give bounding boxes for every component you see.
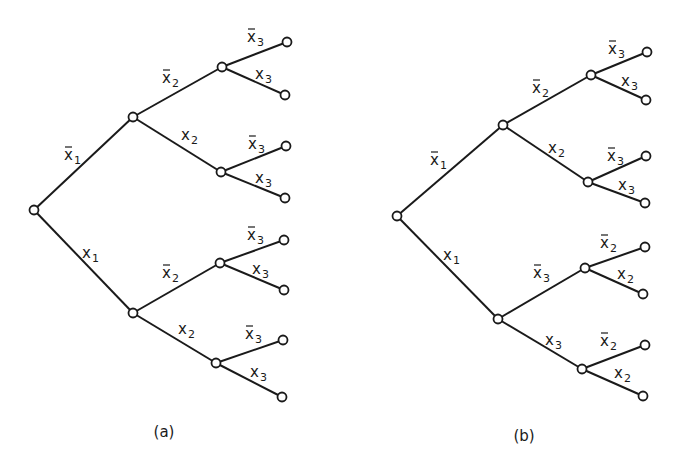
- edge-label: x2: [181, 126, 198, 147]
- tree-node-n11: [587, 71, 596, 80]
- edge-n1-n11: [503, 75, 591, 125]
- edge-label: x3: [621, 72, 638, 93]
- leaf-node-l211: [280, 236, 289, 245]
- edge-label: x1: [443, 246, 460, 267]
- tree-b-edge-labels: x1x1x2x2x3x3x3x3x3x3x2x2x2x2: [430, 40, 638, 385]
- edge-n1-n12: [503, 125, 588, 182]
- edge-label: x3: [255, 169, 272, 190]
- tree-a-caption: (a): [154, 423, 175, 441]
- leaf-node-l212: [280, 286, 289, 295]
- edge-root-n1: [34, 117, 133, 210]
- edge-n2-n22: [133, 313, 216, 363]
- tree-node-root: [393, 212, 402, 221]
- edge-label: x2: [617, 265, 634, 286]
- edge-n12-l122: [588, 182, 645, 203]
- edge-label-negated: x3: [248, 135, 265, 156]
- tree-node-n22: [578, 365, 587, 374]
- edge-n22-l222: [582, 369, 643, 396]
- edge-n1-n11: [133, 67, 222, 117]
- edge-label: x3: [545, 331, 562, 352]
- tree-node-n12: [217, 168, 226, 177]
- edge-label-negated: x2: [162, 69, 179, 90]
- edge-label-negated: x2: [600, 234, 617, 255]
- edge-label-negated: x3: [247, 28, 264, 49]
- leaf-node-l111: [643, 48, 652, 57]
- tree-node-n2: [129, 309, 138, 318]
- leaf-node-l221: [641, 341, 650, 350]
- tree-a-edge-labels: x1x1x2x2x2x2x3x3x3x3x3x3x3x3: [64, 28, 272, 384]
- edge-label: x2: [178, 320, 195, 341]
- edge-label-negated: x2: [532, 79, 549, 100]
- leaf-node-l121: [282, 142, 291, 151]
- tree-node-n22: [212, 359, 221, 368]
- edge-root-n2: [397, 216, 498, 319]
- tree-a: x1x1x2x2x2x2x3x3x3x3x3x3x3x3 (a): [30, 28, 292, 441]
- tree-a-edges: [34, 42, 287, 397]
- leaf-node-l121: [642, 152, 651, 161]
- edge-n11-l112: [222, 67, 285, 95]
- edge-label-negated: x3: [608, 40, 625, 61]
- edge-n12-l122: [221, 172, 285, 198]
- edge-root-n1: [397, 125, 503, 216]
- tree-node-n21: [581, 264, 590, 273]
- leaf-node-l222: [639, 392, 648, 401]
- tree-node-n11: [218, 63, 227, 72]
- edge-n21-l212: [585, 268, 643, 294]
- leaf-node-l222: [278, 393, 287, 402]
- edge-label-negated: x3: [245, 325, 262, 346]
- binary-decision-trees: x1x1x2x2x2x2x3x3x3x3x3x3x3x3 (a) x1x1x2x…: [0, 0, 680, 467]
- tree-node-n21: [216, 259, 225, 268]
- edge-n1-n12: [133, 117, 221, 172]
- edge-label: x1: [82, 244, 99, 265]
- edge-label: x3: [250, 363, 267, 384]
- edge-n2-n22: [498, 319, 582, 369]
- tree-b-caption: (b): [513, 427, 534, 445]
- edge-label-negated: x3: [607, 147, 624, 168]
- edge-label: x2: [548, 139, 565, 160]
- edge-label-negated: x3: [247, 226, 264, 247]
- edge-label: x3: [255, 65, 272, 86]
- edge-label-negated: x2: [600, 332, 617, 353]
- leaf-node-l221: [279, 336, 288, 345]
- tree-node-n1: [129, 113, 138, 122]
- leaf-node-l112: [642, 96, 651, 105]
- edge-label-negated: x2: [162, 264, 179, 285]
- edge-label: x3: [252, 260, 269, 281]
- leaf-node-l112: [281, 91, 290, 100]
- tree-node-n1: [499, 121, 508, 130]
- leaf-node-l212: [639, 290, 648, 299]
- edge-label-negated: x1: [64, 146, 81, 167]
- edge-label: x2: [614, 364, 631, 385]
- edge-label-negated: x1: [430, 151, 447, 172]
- tree-node-root: [30, 206, 39, 215]
- leaf-node-l211: [641, 243, 650, 252]
- tree-a-nodes: [30, 38, 292, 402]
- tree-node-n12: [584, 178, 593, 187]
- edge-n22-l221: [216, 340, 283, 363]
- leaf-node-l122: [641, 199, 650, 208]
- edge-n22-l222: [216, 363, 282, 397]
- edge-n2-n21: [133, 263, 220, 313]
- tree-node-n2: [494, 315, 503, 324]
- tree-b: x1x1x2x2x3x3x3x3x3x3x2x2x2x2 (b): [393, 40, 652, 445]
- leaf-node-l111: [283, 38, 292, 47]
- leaf-node-l122: [281, 194, 290, 203]
- edge-label-negated: x3: [533, 264, 550, 285]
- edge-label: x3: [618, 176, 635, 197]
